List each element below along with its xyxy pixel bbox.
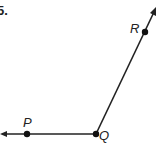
angle-diagram: 5. P Q R — [0, 0, 156, 148]
arrowhead-left-icon — [0, 131, 7, 137]
label-r: R — [130, 21, 139, 36]
problem-number: 5. — [0, 3, 8, 18]
point-p — [24, 131, 30, 137]
label-q: Q — [99, 128, 109, 143]
point-r — [142, 29, 148, 35]
label-p: P — [23, 115, 32, 130]
